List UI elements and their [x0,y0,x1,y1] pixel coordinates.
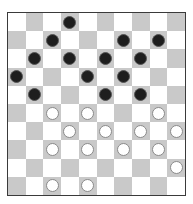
board-square-r6-c9[interactable] [167,122,185,140]
board-square-r3-c9 [167,68,185,86]
board-square-r7-c8[interactable] [150,140,168,158]
board-square-r0-c9[interactable] [167,13,185,31]
black-checker-piece[interactable] [46,34,59,47]
black-checker-piece[interactable] [81,70,94,83]
board-square-r8-c3[interactable] [61,159,79,177]
black-checker-piece[interactable] [117,34,130,47]
white-checker-piece[interactable] [170,125,183,138]
board-square-r4-c1[interactable] [26,86,44,104]
board-square-r9-c9 [167,177,185,195]
board-square-r6-c3[interactable] [61,122,79,140]
board-square-r3-c0[interactable] [8,68,26,86]
board-square-r5-c6[interactable] [114,104,132,122]
board-square-r7-c2[interactable] [43,140,61,158]
board-square-r5-c0[interactable] [8,104,26,122]
board-square-r6-c5[interactable] [97,122,115,140]
black-checker-piece[interactable] [134,52,147,65]
white-checker-piece[interactable] [117,143,130,156]
board-square-r8-c7[interactable] [132,159,150,177]
white-checker-piece[interactable] [63,125,76,138]
board-square-r8-c4 [79,159,97,177]
black-checker-piece[interactable] [10,70,23,83]
board-square-r1-c6[interactable] [114,31,132,49]
white-checker-piece[interactable] [152,143,165,156]
board-square-r3-c5 [97,68,115,86]
board-square-r9-c0[interactable] [8,177,26,195]
board-square-r9-c2[interactable] [43,177,61,195]
black-checker-piece[interactable] [99,52,112,65]
board-square-r7-c4[interactable] [79,140,97,158]
board-square-r8-c1[interactable] [26,159,44,177]
board-square-r0-c1[interactable] [26,13,44,31]
board-square-r2-c1[interactable] [26,49,44,67]
board-square-r2-c7[interactable] [132,49,150,67]
board-square-r7-c0[interactable] [8,140,26,158]
board-square-r9-c3 [61,177,79,195]
black-checker-piece[interactable] [63,52,76,65]
black-checker-piece[interactable] [134,88,147,101]
board-square-r4-c4 [79,86,97,104]
board-square-r0-c3[interactable] [61,13,79,31]
board-square-r2-c6 [114,49,132,67]
black-checker-piece[interactable] [28,52,41,65]
black-checker-piece[interactable] [99,88,112,101]
board-square-r4-c7[interactable] [132,86,150,104]
board-square-r9-c4[interactable] [79,177,97,195]
board-square-r2-c9[interactable] [167,49,185,67]
board-square-r4-c9[interactable] [167,86,185,104]
board-square-r1-c1 [26,31,44,49]
board-square-r4-c6 [114,86,132,104]
board-square-r3-c8[interactable] [150,68,168,86]
board-square-r4-c3[interactable] [61,86,79,104]
white-checker-piece[interactable] [46,107,59,120]
board-square-r1-c9 [167,31,185,49]
white-checker-piece[interactable] [46,179,59,192]
board-square-r6-c2 [43,122,61,140]
board-square-r2-c3[interactable] [61,49,79,67]
board-square-r7-c5 [97,140,115,158]
board-square-r6-c4 [79,122,97,140]
board-square-r9-c8[interactable] [150,177,168,195]
board-square-r2-c5[interactable] [97,49,115,67]
white-checker-piece[interactable] [81,179,94,192]
board-square-r8-c5[interactable] [97,159,115,177]
white-checker-piece[interactable] [99,125,112,138]
white-checker-piece[interactable] [81,107,94,120]
board-square-r0-c7[interactable] [132,13,150,31]
board-square-r1-c4[interactable] [79,31,97,49]
white-checker-piece[interactable] [81,143,94,156]
board-square-r8-c6 [114,159,132,177]
board-square-r0-c4 [79,13,97,31]
board-square-r5-c9 [167,104,185,122]
board-square-r6-c7[interactable] [132,122,150,140]
board-square-r5-c4[interactable] [79,104,97,122]
board-square-r3-c4[interactable] [79,68,97,86]
board-square-r2-c2 [43,49,61,67]
checkers-board [7,12,186,196]
board-square-r5-c2[interactable] [43,104,61,122]
board-square-r0-c5[interactable] [97,13,115,31]
board-square-r1-c8[interactable] [150,31,168,49]
board-square-r5-c8[interactable] [150,104,168,122]
board-square-r1-c2[interactable] [43,31,61,49]
board-square-r4-c5[interactable] [97,86,115,104]
black-checker-piece[interactable] [28,88,41,101]
board-square-r4-c2 [43,86,61,104]
board-square-r9-c6[interactable] [114,177,132,195]
board-square-r9-c1 [26,177,44,195]
white-checker-piece[interactable] [134,125,147,138]
board-square-r2-c0 [8,49,26,67]
white-checker-piece[interactable] [152,107,165,120]
board-square-r8-c9[interactable] [167,159,185,177]
white-checker-piece[interactable] [170,161,183,174]
board-square-r7-c7 [132,140,150,158]
board-square-r3-c6[interactable] [114,68,132,86]
board-square-r7-c6[interactable] [114,140,132,158]
black-checker-piece[interactable] [152,34,165,47]
board-square-r3-c2[interactable] [43,68,61,86]
black-checker-piece[interactable] [117,70,130,83]
white-checker-piece[interactable] [46,143,59,156]
board-square-r6-c1[interactable] [26,122,44,140]
black-checker-piece[interactable] [63,16,76,29]
board-square-r1-c0[interactable] [8,31,26,49]
